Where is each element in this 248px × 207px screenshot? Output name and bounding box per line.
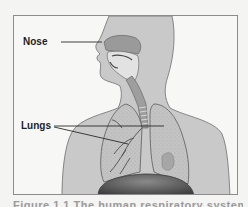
label-lungs: Lungs — [21, 121, 51, 131]
figure-frame: Nose Lungs — [13, 15, 238, 195]
figure-caption: Figure 1.1 The human respiratory system — [13, 199, 243, 207]
respiratory-illustration — [14, 16, 238, 195]
label-nose: Nose — [23, 37, 47, 47]
